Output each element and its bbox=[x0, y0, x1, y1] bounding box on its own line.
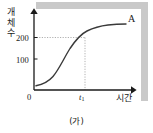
x-tick-label-t1: t1 bbox=[79, 92, 84, 102]
population-growth-figure: 개 체 수 시간 200 100 0 t1 A (가) bbox=[0, 0, 153, 133]
y-axis-label-char-1: 개 bbox=[3, 7, 19, 18]
y-axis-label-char-2: 체 bbox=[3, 18, 19, 29]
y-tick-label-100: 100 bbox=[16, 55, 29, 65]
y-tick-label-200: 200 bbox=[16, 33, 29, 43]
x-tick-subscript: 1 bbox=[81, 96, 84, 102]
curve-label-a: A bbox=[128, 13, 135, 24]
x-axis-label: 시간 bbox=[116, 91, 132, 104]
origin-label: 0 bbox=[27, 92, 31, 102]
growth-curve-a bbox=[36, 24, 126, 86]
figure-caption: (가) bbox=[0, 114, 153, 126]
